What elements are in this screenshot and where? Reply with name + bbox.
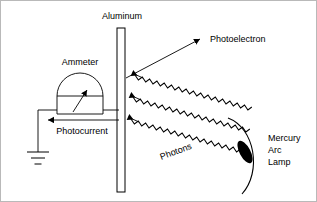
ammeter-needle: [73, 90, 87, 112]
arc-label: Arc: [268, 145, 282, 155]
wire-left: [38, 110, 57, 152]
photoelectron-label: Photoelectron: [210, 34, 266, 44]
photoelectric-effect-diagram: Aluminum Photoelectron Ammeter Photocurr…: [0, 0, 317, 202]
lamp-label: Lamp: [268, 157, 291, 167]
photoelectron-arrow: [126, 39, 200, 78]
mercury-label: Mercury: [268, 133, 301, 143]
figure-border: [1, 1, 317, 202]
aluminum-label: Aluminum: [102, 11, 142, 21]
ammeter-dome: [57, 73, 103, 96]
ammeter-body: [57, 96, 103, 114]
photons-label: Photons: [159, 141, 194, 162]
photocurrent-label: Photocurrent: [56, 126, 108, 136]
ammeter-label: Ammeter: [62, 57, 99, 67]
diagram-canvas: Aluminum Photoelectron Ammeter Photocurr…: [0, 0, 317, 202]
